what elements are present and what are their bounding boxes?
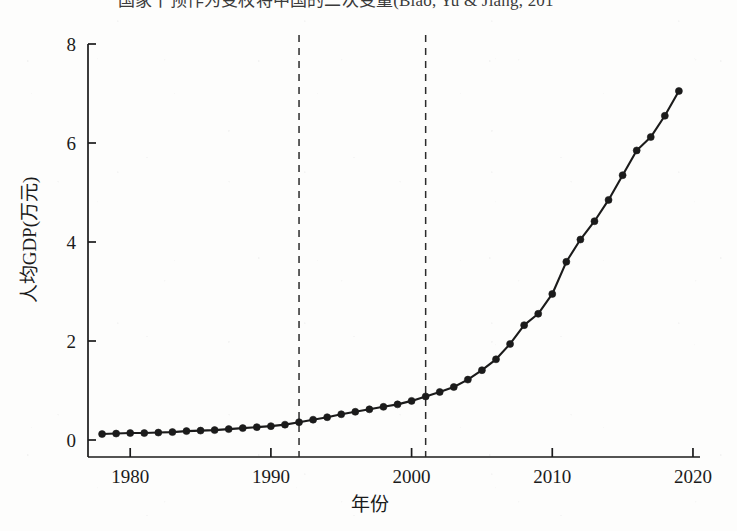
data-point	[352, 408, 359, 415]
x-axis-ticks	[130, 448, 693, 457]
data-point	[422, 393, 429, 400]
x-axis-title: 年份	[351, 494, 389, 515]
data-point	[211, 427, 218, 434]
x-tick-label: 2000	[393, 466, 431, 487]
data-point	[310, 416, 317, 423]
data-point	[647, 134, 654, 141]
y-tick-label: 6	[67, 133, 77, 154]
gdp-series-markers	[99, 88, 683, 438]
x-tick-label: 2010	[533, 466, 571, 487]
y-axis-tick-labels: 02468	[67, 34, 77, 451]
y-axis: 02468	[67, 34, 97, 457]
y-tick-label: 8	[67, 34, 77, 55]
data-point	[619, 172, 626, 179]
reference-vertical-lines	[299, 35, 426, 457]
data-point	[281, 421, 288, 428]
data-point	[366, 406, 373, 413]
data-point	[521, 322, 528, 329]
data-point	[338, 411, 345, 418]
data-point	[141, 430, 148, 437]
x-tick-label: 2020	[674, 466, 712, 487]
data-point	[549, 290, 556, 297]
data-point	[267, 423, 274, 430]
data-point	[183, 428, 190, 435]
data-point	[450, 384, 457, 391]
y-tick-label: 0	[67, 430, 77, 451]
data-point	[197, 427, 204, 434]
data-point	[324, 414, 331, 421]
data-point	[113, 430, 120, 437]
data-point	[591, 218, 598, 225]
data-point	[225, 426, 232, 433]
gdp-per-capita-line-chart: 02468 19801990200020102020 年份 人均GDP(万元)	[0, 0, 737, 531]
data-point	[99, 431, 106, 438]
y-tick-label: 4	[67, 232, 77, 253]
data-point	[563, 258, 570, 265]
data-point	[296, 419, 303, 426]
x-axis: 19801990200020102020	[88, 448, 712, 487]
data-point	[661, 112, 668, 119]
data-point	[394, 401, 401, 408]
y-axis-title: 人均GDP(万元)	[19, 177, 41, 304]
data-point	[577, 236, 584, 243]
data-point	[478, 367, 485, 374]
data-point	[155, 429, 162, 436]
data-point	[408, 397, 415, 404]
gdp-series-line	[102, 91, 679, 434]
x-tick-label: 1990	[252, 466, 290, 487]
y-axis-ticks	[88, 44, 96, 440]
chart-svg: 02468 19801990200020102020 年份 人均GDP(万元)	[0, 0, 737, 531]
data-point	[633, 147, 640, 154]
data-point	[535, 310, 542, 317]
data-point	[380, 403, 387, 410]
data-point	[436, 388, 443, 395]
y-tick-label: 2	[67, 331, 77, 352]
data-point	[239, 425, 246, 432]
data-point	[127, 430, 134, 437]
data-point	[169, 429, 176, 436]
data-point	[493, 356, 500, 363]
data-point	[507, 340, 514, 347]
data-point	[464, 376, 471, 383]
data-point	[253, 424, 260, 431]
x-axis-tick-labels: 19801990200020102020	[111, 466, 712, 487]
data-point	[675, 88, 682, 95]
data-point	[605, 196, 612, 203]
x-tick-label: 1980	[111, 466, 149, 487]
